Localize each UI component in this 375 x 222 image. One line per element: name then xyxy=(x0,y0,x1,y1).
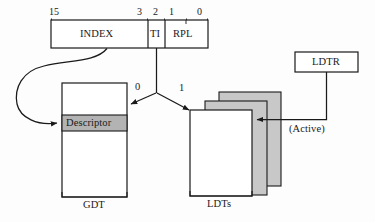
ldt-stack xyxy=(190,92,281,196)
selector-field-rpl: RPL xyxy=(173,29,193,40)
bit-label-15: 15 xyxy=(49,7,59,17)
descriptor-label: Descriptor xyxy=(66,118,111,129)
active-ldt-label: (Active) xyxy=(289,124,325,135)
descriptor-table-diagram: 15 3 2 1 0 INDEX TI RPL 0 1 Descriptor G… xyxy=(0,0,375,222)
ti-branch-lines xyxy=(131,48,189,110)
gdt-caption: GDT xyxy=(83,200,105,211)
bit-label-3: 3 xyxy=(137,7,142,17)
bit-label-0: 0 xyxy=(197,7,202,17)
bit-label-1: 1 xyxy=(169,7,174,17)
gdt-box xyxy=(62,83,127,197)
branch-label-ti-zero: 0 xyxy=(135,82,140,93)
ldtr-label: LDTR xyxy=(312,57,340,68)
branch-label-ti-one: 1 xyxy=(179,83,184,94)
selector-field-index: INDEX xyxy=(80,29,113,40)
bit-label-2: 2 xyxy=(153,7,158,17)
ldts-caption: LDTs xyxy=(207,199,231,210)
selector-field-ti: TI xyxy=(150,29,160,40)
